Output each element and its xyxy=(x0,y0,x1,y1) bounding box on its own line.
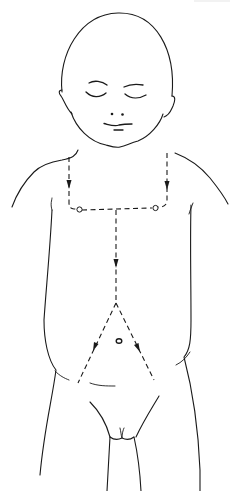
arrow-down-icon xyxy=(114,259,119,268)
head-outline xyxy=(62,13,173,96)
arrow-down-icon xyxy=(165,181,170,190)
right-ear xyxy=(164,96,175,117)
right-groin-line xyxy=(136,396,159,437)
infant-diagram xyxy=(0,0,236,491)
right-clavicular-path xyxy=(158,153,167,207)
head xyxy=(59,13,175,147)
right-torso-side xyxy=(184,205,200,491)
mouth-icon xyxy=(104,124,132,126)
left-leg xyxy=(107,437,110,491)
left-torso-side xyxy=(40,210,56,475)
right-shoulder xyxy=(175,153,228,204)
left-eye-lid-icon xyxy=(89,81,107,85)
left-eye-closed-icon xyxy=(86,92,106,97)
left-flank-fold xyxy=(55,371,69,380)
right-leg xyxy=(134,437,141,491)
left-arm-line xyxy=(51,198,52,210)
arrow-down-icon xyxy=(67,180,72,189)
torso xyxy=(40,205,200,491)
arrow-down-right-icon xyxy=(134,343,140,352)
lower-belly-crease xyxy=(90,383,115,386)
left-groin-line xyxy=(90,402,110,437)
left-inguinal-path xyxy=(78,303,116,383)
right-nipple xyxy=(153,205,158,210)
left-ear xyxy=(59,90,72,114)
navel xyxy=(116,339,122,344)
left-shoulder xyxy=(12,150,78,207)
right-eye-closed-icon xyxy=(125,94,146,98)
right-eye-lid-icon xyxy=(124,84,143,87)
upper-body xyxy=(12,150,228,214)
left-nostril-icon xyxy=(111,113,114,116)
genital-crease xyxy=(120,428,124,438)
intermammary-path xyxy=(82,208,152,210)
right-nostril-icon xyxy=(121,113,124,116)
right-flank-fold xyxy=(176,352,190,365)
arrow-down-left-icon xyxy=(93,342,99,351)
drainage-paths xyxy=(67,153,170,383)
lower-body xyxy=(90,396,159,491)
left-nipple xyxy=(77,207,82,212)
